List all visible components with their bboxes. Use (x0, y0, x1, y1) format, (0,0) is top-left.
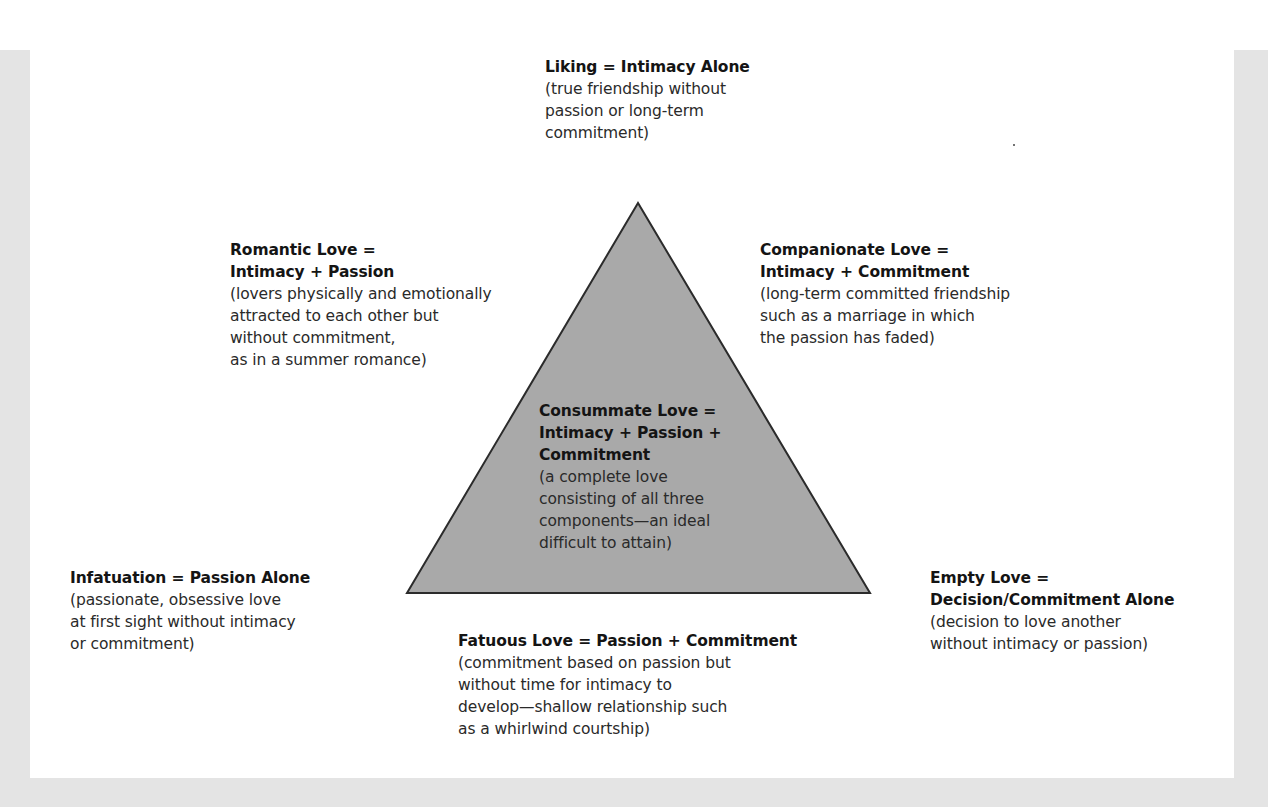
label-infatuation-title: Infatuation = Passion Alone (70, 567, 310, 589)
label-consummate-love: Consummate Love = Intimacy + Passion + C… (539, 400, 721, 554)
label-liking-desc: (true friendship without passion or long… (545, 78, 750, 144)
label-romantic-love: Romantic Love = Intimacy + Passion (love… (230, 239, 492, 371)
label-companionate-love-title: Companionate Love = Intimacy + Commitmen… (760, 239, 1010, 283)
label-fatuous-love: Fatuous Love = Passion + Commitment (com… (458, 630, 797, 740)
stray-mark (1013, 144, 1015, 146)
label-empty-love-desc: (decision to love another without intima… (930, 611, 1174, 655)
label-companionate-love-desc: (long-term committed friendship such as … (760, 283, 1010, 349)
label-romantic-love-desc: (lovers physically and emotionally attra… (230, 283, 492, 371)
label-infatuation-desc: (passionate, obsessive love at first sig… (70, 589, 310, 655)
label-fatuous-love-title: Fatuous Love = Passion + Commitment (458, 630, 797, 652)
label-infatuation: Infatuation = Passion Alone (passionate,… (70, 567, 310, 655)
label-romantic-love-title: Romantic Love = Intimacy + Passion (230, 239, 492, 283)
label-liking: Liking = Intimacy Alone (true friendship… (545, 56, 750, 144)
label-empty-love-title: Empty Love = Decision/Commitment Alone (930, 567, 1174, 611)
label-companionate-love: Companionate Love = Intimacy + Commitmen… (760, 239, 1010, 349)
label-empty-love: Empty Love = Decision/Commitment Alone (… (930, 567, 1174, 655)
label-fatuous-love-desc: (commitment based on passion but without… (458, 652, 797, 740)
label-consummate-love-desc: (a complete love consisting of all three… (539, 466, 721, 554)
label-consummate-love-title: Consummate Love = Intimacy + Passion + C… (539, 400, 721, 466)
label-liking-title: Liking = Intimacy Alone (545, 56, 750, 78)
